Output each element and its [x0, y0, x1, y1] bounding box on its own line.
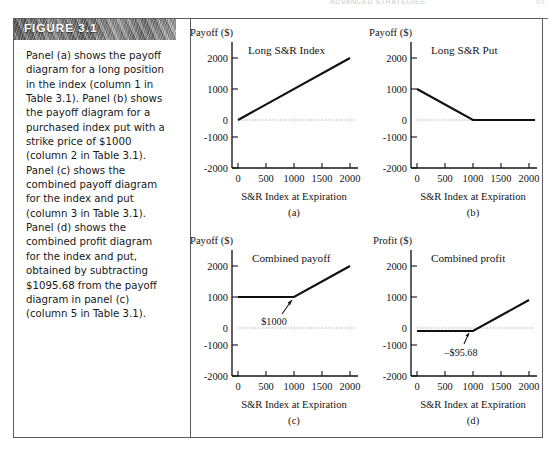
panel-c-ytick-0: 0 — [223, 323, 228, 334]
panel-b-ytick-1000: 1000 — [386, 84, 407, 95]
panel-c-annotation-label: $1000 — [261, 316, 286, 327]
panel-a-xtick-1000: 1000 — [284, 173, 305, 184]
panel-b-xtick-500: 500 — [437, 173, 453, 184]
panel-b-series-line — [417, 89, 535, 120]
panel-a-ytick-1000: 1000 — [207, 84, 228, 95]
panel-d-annotation-arrowhead — [465, 333, 469, 337]
panel-c-ytick-n1000: -1000 — [204, 340, 228, 351]
panel-b: Payoff ($) Long S&R Put 2000 1000 0 -100… — [365, 20, 543, 218]
panel-a-ytick-n1000: -1000 — [204, 132, 228, 143]
panel-a-chart: Payoff ($) Long S&R Index 2000 1000 0 -1… — [186, 20, 364, 218]
panel-d-series-line — [417, 300, 529, 331]
figure-page: 89 ADVANCED STRATEGIES FIGURE 3.1 Panel … — [0, 0, 555, 449]
panel-d-title: Combined profit — [431, 252, 506, 264]
panel-b-ytick-n1000: -1000 — [383, 132, 407, 143]
panel-d-id: (d) — [467, 415, 480, 426]
running-head-title: ADVANCED STRATEGIES — [330, 0, 426, 5]
panel-c-xtick-1500: 1500 — [312, 381, 333, 392]
panel-b-title: Long S&R Put — [431, 44, 498, 56]
panel-c-id: (c) — [288, 415, 300, 426]
panel-b-xlabel: S&R Index at Expiration — [420, 191, 526, 202]
panel-b-ytick-n2000: -2000 — [383, 163, 407, 174]
panel-c-ylabel: Payoff ($) — [190, 235, 234, 247]
figure-number-label: FIGURE 3.1 — [24, 22, 98, 34]
panel-d-xtick-2000: 2000 — [519, 381, 540, 392]
panel-b-ytick-2000: 2000 — [386, 53, 407, 64]
panel-b-xtick-1000: 1000 — [463, 173, 484, 184]
panel-d-ytick-1000: 1000 — [386, 292, 407, 303]
panel-a-ytick-n2000: -2000 — [204, 163, 228, 174]
panel-a-xtick-0: 0 — [235, 173, 240, 184]
panel-c-xtick-2000: 2000 — [340, 381, 361, 392]
panel-d-xlabel: S&R Index at Expiration — [420, 399, 526, 410]
panel-d: Profit ($) Combined profit 2000 1000 0 -… — [365, 228, 543, 426]
running-head: 89 ADVANCED STRATEGIES — [330, 0, 545, 7]
panel-d-xtick-1000: 1000 — [463, 381, 484, 392]
panel-c-chart: Payoff ($) Combined payoff 2000 1000 0 -… — [186, 228, 364, 426]
panel-c-ytick-2000: 2000 — [207, 261, 228, 272]
panel-b-id: (b) — [467, 207, 480, 218]
panel-d-xtick-500: 500 — [437, 381, 453, 392]
panel-b-xtick-2000: 2000 — [519, 173, 540, 184]
panel-a-xtick-500: 500 — [258, 173, 274, 184]
panel-d-ytick-2000: 2000 — [386, 261, 407, 272]
figure-number-banner: FIGURE 3.1 — [14, 19, 176, 40]
panel-b-chart: Payoff ($) Long S&R Put 2000 1000 0 -100… — [365, 20, 543, 218]
panel-d-ytick-n1000: -1000 — [383, 340, 407, 351]
panel-c-xtick-500: 500 — [258, 381, 274, 392]
panel-c-ytick-n2000: -2000 — [204, 371, 228, 382]
panel-b-ylabel: Payoff ($) — [369, 27, 413, 39]
panel-d-xtick-0: 0 — [414, 381, 419, 392]
panel-b-xtick-1500: 1500 — [491, 173, 512, 184]
panel-a-xlabel: S&R Index at Expiration — [241, 191, 347, 202]
panel-b-ytick-0: 0 — [402, 115, 407, 126]
panel-a-series-line — [238, 58, 350, 120]
panel-d-ylabel: Profit ($) — [373, 235, 413, 247]
panel-a-ytick-2000: 2000 — [207, 53, 228, 64]
panel-c-xtick-0: 0 — [235, 381, 240, 392]
panel-a-ytick-0: 0 — [223, 115, 228, 126]
panel-c: Payoff ($) Combined payoff 2000 1000 0 -… — [186, 228, 364, 426]
panel-c-ytick-1000: 1000 — [207, 292, 228, 303]
panel-d-chart: Profit ($) Combined profit 2000 1000 0 -… — [365, 228, 543, 426]
panel-d-ytick-0: 0 — [402, 323, 407, 334]
panel-c-title: Combined payoff — [252, 252, 331, 264]
panel-b-xtick-0: 0 — [414, 173, 419, 184]
panel-d-ytick-n2000: -2000 — [383, 371, 407, 382]
panel-a-title: Long S&R Index — [248, 44, 325, 56]
panel-a-id: (a) — [288, 207, 300, 218]
panel-a: Payoff ($) Long S&R Index 2000 1000 0 -1… — [186, 20, 364, 218]
panel-c-series-line — [238, 266, 350, 297]
panel-c-xlabel: S&R Index at Expiration — [241, 399, 347, 410]
panel-a-xtick-1500: 1500 — [312, 173, 333, 184]
panel-d-xtick-1500: 1500 — [491, 381, 512, 392]
figure-caption-text: Panel (a) shows the payoff diagram for a… — [26, 49, 165, 322]
panel-d-annotation-label: –$95.68 — [443, 347, 477, 358]
panel-a-xtick-2000: 2000 — [340, 173, 361, 184]
panel-a-ylabel: Payoff ($) — [190, 27, 234, 39]
panel-c-xtick-1000: 1000 — [284, 381, 305, 392]
page-number: 89 — [536, 0, 545, 5]
